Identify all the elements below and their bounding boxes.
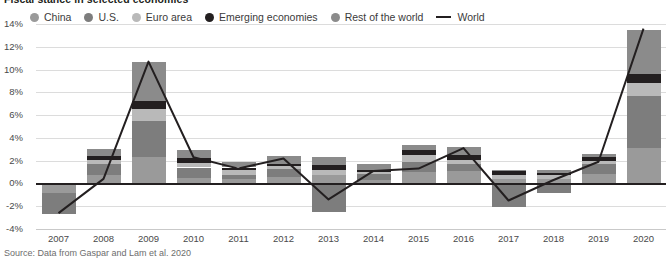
y-axis-tick-label: 8%: [0, 87, 23, 97]
legend-item[interactable]: China: [30, 11, 71, 23]
gridline: [36, 206, 666, 207]
bar-segment: [357, 172, 391, 174]
bar-group[interactable]: [312, 24, 346, 229]
legend-item[interactable]: Rest of the world: [331, 11, 424, 23]
source-note: Source: Data from Gaspar and Lam et al. …: [4, 248, 191, 258]
x-axis-tick-label: 2019: [577, 233, 621, 244]
x-axis-tick-label: 2014: [352, 233, 396, 244]
bar-segment: [402, 162, 436, 172]
bar-segment: [87, 164, 121, 175]
bar-segment: [177, 158, 211, 163]
bar-group[interactable]: [402, 24, 436, 229]
bar-segment: [582, 154, 616, 157]
x-axis-tick-label: 2008: [82, 233, 126, 244]
bar-segment: [222, 162, 256, 168]
x-axis-tick-label: 2007: [37, 233, 81, 244]
bar-segment: [357, 164, 391, 170]
bar-segment: [222, 175, 256, 178]
bar-segment: [87, 175, 121, 183]
bar-group[interactable]: [222, 24, 256, 229]
zero-axis-line: [36, 183, 666, 185]
legend-item[interactable]: Emerging economies: [205, 11, 318, 23]
bar-group[interactable]: [267, 24, 301, 229]
bar-segment: [447, 147, 481, 155]
bar-segment: [222, 168, 256, 170]
bar-group[interactable]: [537, 24, 571, 229]
bar-segment: [312, 157, 346, 165]
legend-item-label: Emerging economies: [219, 11, 318, 23]
bar-segment: [87, 149, 121, 156]
bar-segment: [582, 161, 616, 164]
bar-segment: [627, 148, 661, 183]
bar-group[interactable]: [177, 24, 211, 229]
x-axis-tick-label: 2016: [442, 233, 486, 244]
bar-segment: [177, 168, 211, 178]
gridline: [36, 70, 666, 71]
bar-group[interactable]: [132, 24, 166, 229]
bar-segment: [42, 193, 76, 215]
bar-group[interactable]: [627, 24, 661, 229]
bar-segment: [267, 177, 301, 184]
legend-item-label: World: [457, 11, 484, 23]
y-axis-tick-label: 14%: [0, 19, 23, 29]
bar-group[interactable]: [492, 24, 526, 229]
bar-segment: [537, 173, 571, 175]
y-axis-tick-label: 4%: [0, 133, 23, 143]
bar-segment: [312, 165, 346, 170]
bar-segment: [312, 170, 346, 176]
bar-segment: [402, 145, 436, 151]
bar-group[interactable]: [87, 24, 121, 229]
bar-segment: [267, 164, 301, 166]
bar-segment: [132, 62, 166, 102]
legend-item-label: Euro area: [146, 11, 192, 23]
bar-segment: [447, 171, 481, 184]
legend-item[interactable]: Euro area: [132, 11, 192, 23]
bar-segment: [492, 171, 526, 176]
bar-segment: [132, 101, 166, 109]
bar-segment: [447, 160, 481, 165]
bar-group[interactable]: [357, 24, 391, 229]
y-axis-tick-label: 6%: [0, 110, 23, 120]
bar-segment: [132, 109, 166, 120]
x-axis: [36, 229, 666, 230]
bar-segment: [222, 170, 256, 176]
legend-item[interactable]: World: [436, 11, 484, 23]
x-axis-tick-label: 2018: [532, 233, 576, 244]
bar-segment: [402, 172, 436, 183]
gridline: [36, 138, 666, 139]
bar-segment: [267, 166, 301, 168]
x-axis-tick-label: 2011: [217, 233, 261, 244]
bar-segment: [582, 157, 616, 160]
bar-segment: [87, 160, 121, 165]
gridline: [36, 115, 666, 116]
bar-group[interactable]: [42, 24, 76, 229]
x-axis-tick-label: 2012: [262, 233, 306, 244]
legend-dot-swatch: [331, 13, 340, 22]
x-axis-tick-label: 2020: [622, 233, 666, 244]
y-axis-tick-label: 10%: [0, 65, 23, 75]
legend-dot-swatch: [30, 13, 39, 22]
y-axis-tick-label: 12%: [0, 42, 23, 52]
bar-segment: [87, 156, 121, 159]
legend-dot-swatch: [205, 13, 214, 22]
legend-item[interactable]: U.S.: [84, 11, 118, 23]
bar-group[interactable]: [447, 24, 481, 229]
bar-segment: [582, 164, 616, 174]
y-axis-tick-label: -2%: [0, 201, 23, 211]
bar-group[interactable]: [582, 24, 616, 229]
bar-segment: [537, 175, 571, 178]
legend-item-label: U.S.: [98, 11, 118, 23]
y-axis-tick-label: -4%: [0, 224, 23, 234]
x-axis-tick-label: 2010: [172, 233, 216, 244]
legend-dot-swatch: [132, 13, 141, 22]
bar-segment: [357, 174, 391, 180]
bar-segment: [627, 96, 661, 148]
legend-item-label: Rest of the world: [345, 11, 424, 23]
gridline: [36, 47, 666, 48]
gridline: [36, 161, 666, 162]
bar-segment: [447, 164, 481, 171]
y-axis-tick-label: 0%: [0, 178, 23, 188]
bar-segment: [492, 183, 526, 207]
bar-segment: [402, 150, 436, 155]
bar-segment: [492, 170, 526, 171]
